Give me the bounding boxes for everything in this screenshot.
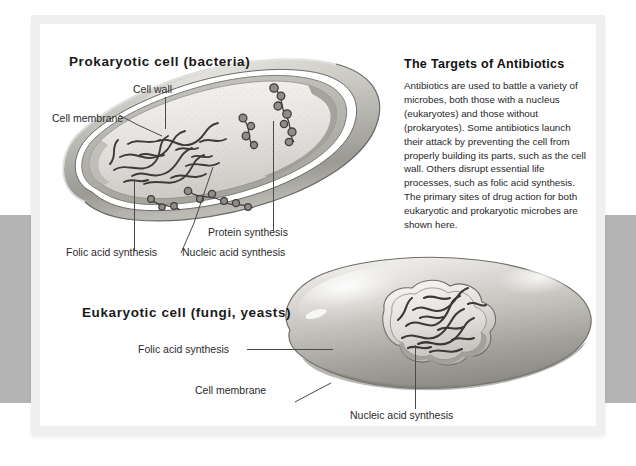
leader-nucleic-acid-prokaryote: [180, 167, 214, 255]
figure-card: Prokaryotic cell (bacteria) Cell wall Ce…: [31, 15, 605, 435]
leader-cell-membrane-eukaryote: [294, 382, 332, 404]
leader-cell-membrane-prokaryote: [118, 112, 164, 138]
leader-cell-wall: [165, 97, 166, 129]
label-cell-membrane-eukaryote: Cell membrane: [195, 384, 266, 396]
label-nucleic-acid-synthesis-prokaryote: Nucleic acid synthesis: [182, 246, 285, 258]
right-edge-band: [602, 215, 636, 403]
page-background: Prokaryotic cell (bacteria) Cell wall Ce…: [0, 0, 636, 466]
panel-title: The Targets of Antibiotics: [404, 57, 604, 73]
left-edge-band: [0, 215, 34, 403]
panel-body-text: Antibiotics are used to battle a variety…: [404, 79, 589, 232]
leader-folic-acid-prokaryote: [134, 179, 135, 251]
leader-nucleic-acid-eukaryote: [415, 345, 416, 409]
figure-canvas: Prokaryotic cell (bacteria) Cell wall Ce…: [40, 24, 596, 426]
eukaryotic-cell-illustration: [272, 252, 602, 402]
label-cell-wall: Cell wall: [133, 83, 172, 95]
prokaryotic-cell-heading: Prokaryotic cell (bacteria): [69, 54, 250, 69]
eukaryotic-cell-heading: Eukaryotic cell (fungi, yeasts): [82, 305, 291, 320]
label-cell-membrane-prokaryote: Cell membrane: [52, 112, 123, 124]
label-protein-synthesis: Protein synthesis: [208, 226, 288, 238]
label-folic-acid-synthesis-prokaryote: Folic acid synthesis: [66, 246, 157, 258]
label-nucleic-acid-synthesis-eukaryote: Nucleic acid synthesis: [350, 409, 453, 421]
leader-folic-acid-eukaryote: [247, 349, 333, 350]
label-folic-acid-synthesis-eukaryote: Folic acid synthesis: [138, 343, 229, 355]
leader-protein-synthesis: [273, 121, 274, 231]
